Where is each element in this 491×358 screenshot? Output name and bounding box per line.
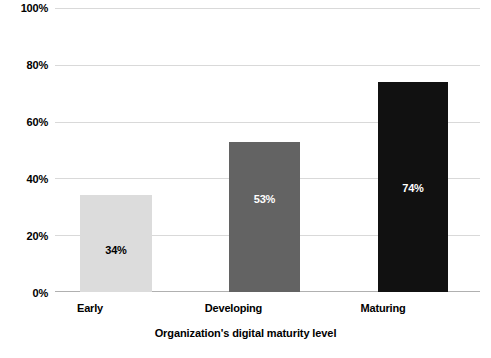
bar-maturing[interactable]: 74% xyxy=(378,82,448,292)
bar-value-early: 34% xyxy=(80,245,152,256)
bar-developing[interactable]: 53% xyxy=(229,142,300,293)
bar-early[interactable]: 34% xyxy=(80,195,152,292)
y-tick-label-40: 40% xyxy=(2,174,48,185)
y-axis-tick-labels: 100% 80% 60% 40% 20% 0% xyxy=(0,8,48,292)
gridline-100 xyxy=(55,8,480,9)
x-tick-label-early: Early xyxy=(44,303,136,314)
x-tick-label-maturing: Maturing xyxy=(333,303,433,314)
y-tick-label-100: 100% xyxy=(2,3,48,14)
x-axis-title: Organization's digital maturity level xyxy=(0,328,491,339)
gridline-80 xyxy=(55,65,480,66)
bar-value-maturing: 74% xyxy=(378,183,448,194)
x-tick-label-developing: Developing xyxy=(183,303,284,314)
bar-value-developing: 53% xyxy=(229,194,300,205)
y-tick-label-20: 20% xyxy=(2,231,48,242)
y-tick-label-60: 60% xyxy=(2,117,48,128)
y-tick-label-0: 0% xyxy=(2,288,48,299)
bar-chart: 100% 80% 60% 40% 20% 0% 34% 53% 74% Earl… xyxy=(0,0,491,358)
y-tick-label-80: 80% xyxy=(2,60,48,71)
plot-area: 34% 53% 74% xyxy=(55,8,480,292)
